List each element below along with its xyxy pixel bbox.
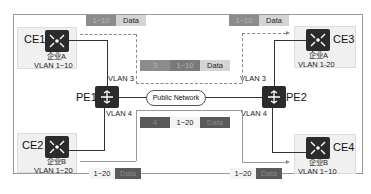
packet-payload: Data <box>200 60 230 71</box>
link-ce4-pe2-v <box>272 108 273 153</box>
path-a-right-up <box>242 33 243 83</box>
link-ce3-pe2-v <box>274 40 275 86</box>
ce2-org: 企业B <box>47 158 66 166</box>
ce1-vlan: VLAN 1~10 <box>34 62 73 70</box>
public-network-cloud: Public Network <box>146 90 206 106</box>
link-ce3-pe2-h <box>274 40 306 41</box>
pe1-vlan3-label: VLAN 3 <box>108 75 134 83</box>
pe1-vlan4-label: VLAN 4 <box>106 110 132 118</box>
pe2-vlan3-label: VLAN 3 <box>240 75 266 83</box>
ce3-vlan: VLAN 1-20 <box>298 61 335 69</box>
link-ce2-pe1-h <box>69 150 105 151</box>
link-ce1-pe1-h <box>69 40 108 41</box>
ce3-label: CE3 <box>333 34 354 45</box>
packet-vlan-tag: 1~20 <box>170 117 200 128</box>
packet-top-right: 1~10 Data <box>229 15 289 26</box>
pe1-router-icon <box>95 86 119 108</box>
path-b-left-up <box>136 110 137 161</box>
ce1-org: 企业A <box>47 53 66 61</box>
packet-bottom-right: 1~20 Data <box>230 168 282 179</box>
ce1-label: CE1 <box>24 34 45 45</box>
packet-outer-vlan: 4 <box>140 117 170 128</box>
path-b-right-down <box>242 110 243 162</box>
pe2-label: PE2 <box>286 92 307 103</box>
path-b-bottom-left <box>80 161 136 162</box>
packet-payload: Data <box>200 117 230 128</box>
link-ce2-pe1-v <box>104 108 105 151</box>
path-b-bottom-right <box>242 162 286 163</box>
arrow-to-ce4-icon <box>286 160 290 164</box>
packet-payload: Data <box>259 15 289 26</box>
packet-middle-top: 3 1~10 Data <box>140 60 230 71</box>
packet-middle-bottom: 4 1~20 Data <box>140 117 230 128</box>
packet-vlan-tag: 1~10 <box>170 60 200 71</box>
pe2-vlan4-label: VLAN 4 <box>241 110 267 118</box>
packet-payload: Data <box>115 168 141 179</box>
ce3-switch-icon <box>306 29 330 51</box>
link-ce4-pe2-h <box>272 152 306 153</box>
packet-bottom-left: 1~20 Data <box>89 168 141 179</box>
pe2-router-icon <box>262 86 286 108</box>
pe1-label: PE1 <box>76 92 97 103</box>
path-b-middle <box>136 110 242 111</box>
path-a-left-down <box>136 34 137 84</box>
packet-payload: Data <box>256 168 282 179</box>
packet-vlan-tag: 1~10 <box>229 15 259 26</box>
ce2-vlan: VLAN 1~20 <box>34 167 73 175</box>
packet-vlan-tag: 1~20 <box>230 168 256 179</box>
packet-payload: Data <box>116 15 146 26</box>
ce4-label: CE4 <box>333 142 354 153</box>
path-a-top-right <box>242 33 286 34</box>
packet-vlan-tag: 1~20 <box>89 168 115 179</box>
ce4-switch-icon <box>306 137 330 159</box>
packet-top-left: 1~10 Data <box>86 15 146 26</box>
packet-outer-vlan: 3 <box>140 60 170 71</box>
packet-vlan-tag: 1~10 <box>86 15 116 26</box>
ce4-org: 企业B <box>309 159 328 167</box>
ce2-switch-icon <box>45 136 69 158</box>
arrow-to-ce3-icon <box>286 31 290 35</box>
path-a-middle <box>136 83 242 84</box>
ce3-org: 企业A <box>309 52 328 60</box>
ce1-switch-icon <box>45 30 69 52</box>
path-a-top-left <box>80 34 136 35</box>
ce4-vlan: VLAN 1~10 <box>298 168 337 176</box>
ce2-label: CE2 <box>22 140 43 151</box>
